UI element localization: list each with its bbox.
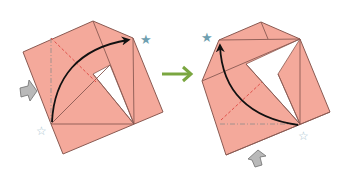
- step-after-figure: ★ ☆: [201, 22, 330, 167]
- push-arrow-icon: [20, 80, 37, 101]
- hollow-star-icon: ☆: [36, 124, 47, 138]
- origami-diagram: ★ ☆: [0, 0, 344, 179]
- filled-star-icon: ★: [140, 32, 152, 47]
- push-arrow-icon: [248, 150, 266, 167]
- hollow-star-icon: ☆: [298, 129, 309, 143]
- step-before-figure: ★ ☆: [20, 21, 163, 154]
- filled-star-icon: ★: [201, 30, 213, 45]
- paper-shape: [202, 22, 330, 155]
- transition-arrow-icon: [162, 67, 191, 81]
